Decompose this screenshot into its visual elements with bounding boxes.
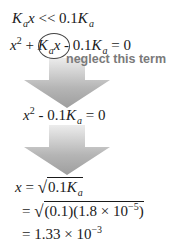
substituted-expression: = √(0.1)(1.8 × 10−5) xyxy=(22,202,144,219)
solution-expression: x = √0.1Ka xyxy=(15,178,83,195)
numeric-result: = 1.33 × 10−3 xyxy=(22,227,102,242)
inequality-assumption: Kax << 0.1Ka xyxy=(12,11,94,26)
quadratic-equation: x2 + Kax - 0.1Ka = 0 xyxy=(10,38,131,53)
down-arrow-icon xyxy=(24,125,110,175)
neglect-annotation: neglect this term xyxy=(66,52,166,66)
simplified-equation: x2 - 0.1Ka = 0 xyxy=(23,108,105,123)
